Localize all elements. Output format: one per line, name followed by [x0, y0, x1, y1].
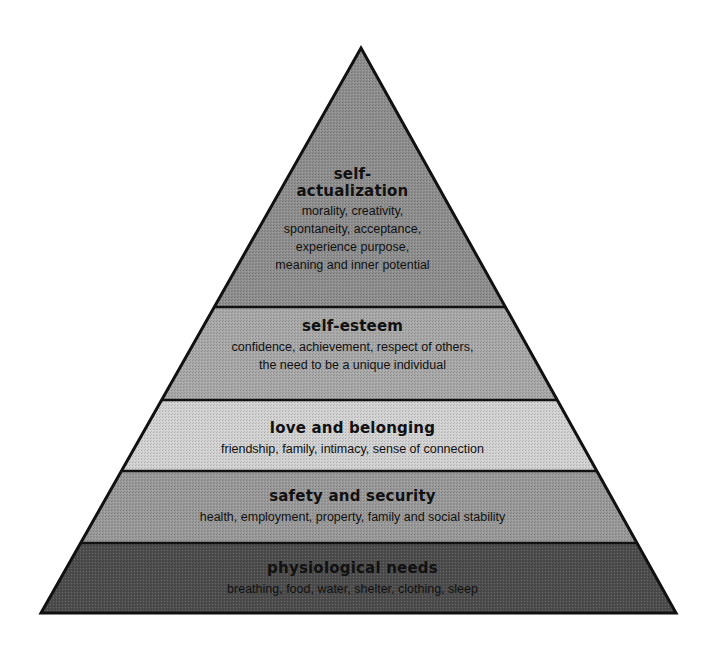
level-label-self-esteem: self-esteem confidence, achievement, res…: [0, 318, 705, 374]
description-line: health, employment, property, family and…: [0, 508, 705, 526]
level-title: self-esteem: [0, 318, 705, 335]
level-description: breathing, food, water, shelter, clothin…: [0, 580, 705, 598]
description-line: spontaneity, acceptance,: [0, 220, 705, 238]
level-label-love-and-belonging: love and belonging friendship, family, i…: [0, 420, 705, 458]
level-description: friendship, family, intimacy, sense of c…: [0, 440, 705, 458]
level-title: physiological needs: [0, 560, 705, 577]
level-label-physiological-needs: physiological needs breathing, food, wat…: [0, 560, 705, 598]
description-line: meaning and inner potential: [0, 256, 705, 274]
level-description: health, employment, property, family and…: [0, 508, 705, 526]
description-line: morality, creativity,: [0, 202, 705, 220]
description-line: breathing, food, water, shelter, clothin…: [0, 580, 705, 598]
level-title: safety and security: [0, 488, 705, 505]
description-line: experience purpose,: [0, 238, 705, 256]
description-line: confidence, achievement, respect of othe…: [0, 338, 705, 356]
level-label-self-actualization: self- actualization morality, creativity…: [0, 166, 705, 274]
level-description: confidence, achievement, respect of othe…: [0, 338, 705, 374]
level-description: morality, creativity, spontaneity, accep…: [0, 202, 705, 274]
level-title: actualization: [0, 183, 705, 200]
level-label-safety-and-security: safety and security health, employment, …: [0, 488, 705, 526]
level-title: love and belonging: [0, 420, 705, 437]
description-line: the need to be a unique individual: [0, 356, 705, 374]
description-line: friendship, family, intimacy, sense of c…: [0, 440, 705, 458]
maslow-hierarchy-diagram: self- actualization morality, creativity…: [0, 0, 705, 651]
level-title: self-: [0, 166, 705, 183]
